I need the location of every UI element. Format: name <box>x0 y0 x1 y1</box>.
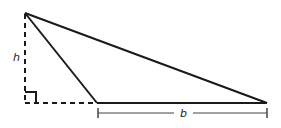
height-label: h <box>13 51 20 64</box>
base-label: b <box>180 107 187 120</box>
right-angle-marker <box>25 92 36 103</box>
diagram-svg: h b <box>0 0 281 128</box>
triangle-diagram: h b <box>0 0 281 128</box>
